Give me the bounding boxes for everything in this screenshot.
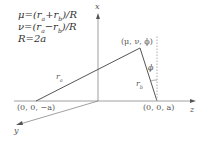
phi-angle-label: ϕ [148,63,153,72]
y-axis-arrow-icon [16,121,23,125]
field-point-label: (μ, ν, ϕ) [121,37,153,46]
z-axis-label: z [190,105,194,114]
ra-label: ra [56,72,63,83]
left-focus-label: (0, 0, −a) [17,103,55,112]
y-axis-label: y [14,126,19,135]
rb-segment [140,48,157,101]
z-axis-arrow-icon [190,99,196,103]
equation-r: R=2a [18,33,46,44]
x-axis-arrow-icon [96,13,100,19]
x-axis-label: x [95,2,100,11]
ra-segment [36,48,140,101]
right-focus-label: (0, 0, a) [143,103,174,112]
rb-label: rb [136,79,143,90]
phi-angle-arc [151,80,158,81]
